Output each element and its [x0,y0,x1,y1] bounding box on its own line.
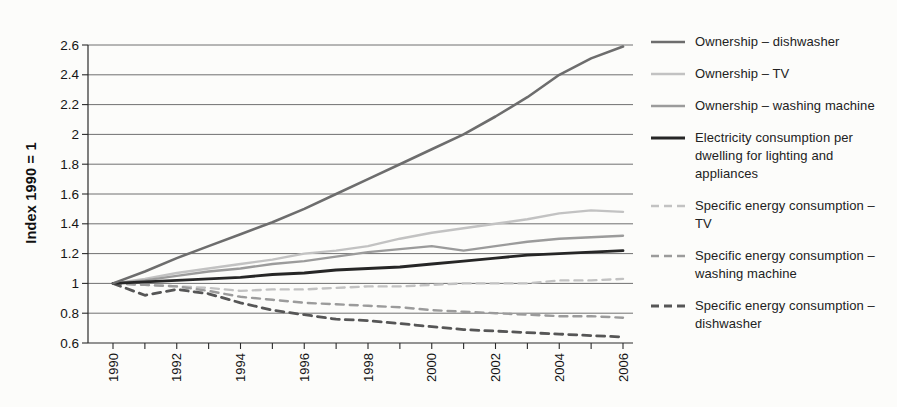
y-tick-label: 2.4 [60,67,79,82]
y-tick-label: 2.6 [60,38,79,53]
legend-label: Ownership – TV [695,65,881,83]
legend-line-swatch-icon [650,69,686,79]
legend-item: Specific energy consumption – dishwasher [650,297,890,333]
legend-line-swatch-icon [650,37,686,47]
legend-item: Ownership – dishwasher [650,33,890,51]
series-line-1 [113,210,623,283]
y-tick-label: 2.2 [60,97,79,112]
y-tick-label: 1.8 [60,157,79,172]
y-tick-label: 1.2 [60,246,79,261]
legend-item: Specific energy consumption – washing ma… [650,247,890,283]
y-axis-title: Index 1990 = 1 [23,142,39,244]
x-tick-label: 1998 [361,353,376,382]
x-tick-label: 2006 [616,353,631,382]
x-tick-label: 2002 [488,353,503,382]
legend-label: Specific energy consumption – dishwasher [695,297,881,333]
x-tick-label: 1996 [297,353,312,382]
y-tick-label: 1 [71,276,79,291]
x-tick-label: 1990 [106,353,121,382]
series-line-5 [113,283,623,317]
y-tick-label: 1.4 [60,216,79,231]
legend-label: Specific energy consumption – washing ma… [695,247,881,283]
series-line-6 [113,283,623,337]
legend-label: Ownership – dishwasher [695,33,881,51]
series-line-3 [113,251,623,284]
legend-item: Ownership – TV [650,65,890,83]
legend-label: Electricity consumption per dwelling for… [695,129,881,183]
y-tick-label: 1.6 [60,187,79,202]
legend-item: Ownership – washing machine [650,97,890,115]
series-line-0 [113,47,623,284]
legend: Ownership – dishwasherOwnership – TVOwne… [650,33,890,333]
legend-line-swatch-icon [650,133,686,143]
legend-line-swatch-icon [650,101,686,111]
series-line-2 [113,236,623,284]
y-tick-label: 0.6 [60,336,79,351]
legend-label: Ownership – washing machine [695,97,881,115]
legend-item: Electricity consumption per dwelling for… [650,129,890,183]
x-tick-label: 2000 [424,353,439,382]
y-tick-label: 0.8 [60,306,79,321]
legend-line-swatch-icon [650,201,686,211]
gridlines [88,45,633,313]
legend-item: Specific energy consumption – TV [650,197,890,233]
x-tick-label: 2004 [552,353,567,382]
x-tick-label: 1994 [233,353,248,382]
legend-label: Specific energy consumption – TV [695,197,881,233]
figure: 0.60.811.21.41.61.822.22.42.619901992199… [0,0,897,407]
x-tick-label: 1992 [169,353,184,382]
axes: 0.60.811.21.41.61.822.22.42.619901992199… [60,38,633,382]
y-tick-label: 2 [71,127,79,142]
legend-line-swatch-icon [650,301,686,311]
legend-line-swatch-icon [650,251,686,261]
line-chart: 0.60.811.21.41.61.822.22.42.619901992199… [0,0,660,407]
